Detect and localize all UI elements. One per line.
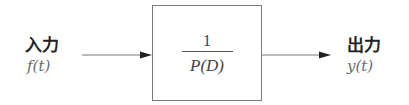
transfer-function-block [152,5,262,101]
output-signal: y(t) [347,59,373,74]
output-label: 出力 [347,37,381,54]
input-arrow [82,52,152,59]
fraction-bar [182,51,233,52]
arrowhead-icon [319,52,331,59]
arrowhead-icon [140,52,152,59]
numerator: 1 [182,32,232,49]
output-arrow [262,52,331,59]
denominator: P(D) [176,57,238,74]
